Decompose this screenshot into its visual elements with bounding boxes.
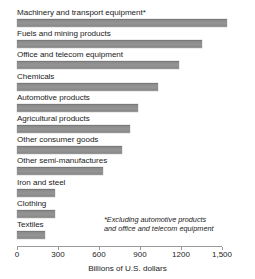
bar-track (17, 104, 222, 112)
bar-category-label: Machinery and transport equipment* (17, 8, 146, 18)
bar (17, 189, 55, 197)
bar-row: Agricultural products (0, 114, 255, 135)
chart-title-strip (0, 0, 255, 5)
bar-track (17, 83, 222, 91)
bar-track (17, 40, 222, 48)
bar-track (17, 19, 222, 27)
bar-track (17, 189, 222, 197)
bar-category-label: Office and telecom equipment (17, 50, 123, 60)
bar-track (17, 125, 222, 133)
bar-row: Automotive products (0, 93, 255, 114)
bar-row: Other semi-manufactures (0, 156, 255, 177)
bar-category-label: Other consumer goods (17, 135, 98, 145)
bar (17, 104, 138, 112)
bar-category-label: Textiles (17, 220, 44, 230)
bar (17, 167, 103, 175)
bar-category-label: Fuels and mining products (17, 29, 111, 39)
x-axis-tick-label: 1,500 (212, 250, 232, 259)
x-axis-tick-label: 900 (133, 250, 146, 259)
bar (17, 40, 202, 48)
plot-area: Machinery and transport equipment*Fuels … (0, 8, 255, 249)
x-axis-tick-label: 0 (15, 250, 19, 259)
bar (17, 83, 158, 91)
x-axis-tick-label: 300 (51, 250, 64, 259)
x-axis-tick-label: 1200 (172, 250, 190, 259)
bar (17, 125, 130, 133)
bar-chart: Machinery and transport equipment*Fuels … (0, 0, 255, 279)
bar (17, 210, 55, 218)
bar-category-label: Automotive products (17, 93, 90, 103)
bar-row: Chemicals (0, 72, 255, 93)
footnote-line-2: and office and telecom equipment (104, 225, 214, 234)
bar-row: Fuels and mining products (0, 29, 255, 50)
bar (17, 19, 227, 27)
x-axis-title: Billions of U.S. dollars (0, 264, 255, 273)
axis-line (17, 246, 222, 247)
chart-footnote: *Excluding automotive products and offic… (104, 216, 214, 233)
bar-row: Machinery and transport equipment* (0, 8, 255, 29)
bar-row: Iron and steel (0, 178, 255, 199)
bar (17, 231, 45, 239)
bar-track (17, 61, 222, 69)
bar-category-label: Chemicals (17, 72, 54, 82)
bar-category-label: Agricultural products (17, 114, 90, 124)
bar-category-label: Clothing (17, 199, 46, 209)
bar-category-label: Iron and steel (17, 178, 65, 188)
bar-track (17, 167, 222, 175)
bar-category-label: Other semi-manufactures (17, 156, 107, 166)
bar-track (17, 146, 222, 154)
bar-row: Office and telecom equipment (0, 50, 255, 71)
bar (17, 146, 122, 154)
bar (17, 61, 179, 69)
x-axis-tick-label: 600 (92, 250, 105, 259)
bar-row: Other consumer goods (0, 135, 255, 156)
x-axis: Billions of U.S. dollars 030060090012001… (0, 246, 255, 279)
